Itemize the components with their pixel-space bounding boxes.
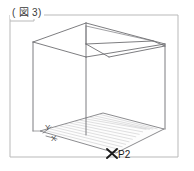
point-p2-label: P2 <box>118 149 131 160</box>
box-top-face <box>86 26 165 57</box>
box-edge-back-left-top <box>33 23 86 42</box>
figure-drawing: Y X P2 <box>0 0 194 171</box>
y-axis-label: Y <box>45 123 51 132</box>
box-edge-front-left-top <box>33 42 86 57</box>
box-edge-back-right-top <box>86 23 165 44</box>
ground-plane-outline <box>40 113 164 153</box>
x-axis-label: X <box>51 134 57 143</box>
box-top-edge-left-back <box>86 41 153 44</box>
box-upper-silhouette <box>33 23 165 57</box>
ground-plane <box>40 113 164 153</box>
figure-label: ( 図 3) <box>10 7 44 19</box>
figure-panel: Y X P2 ( 図 3) <box>0 0 194 171</box>
box-top-edge-upper-left <box>86 26 153 41</box>
